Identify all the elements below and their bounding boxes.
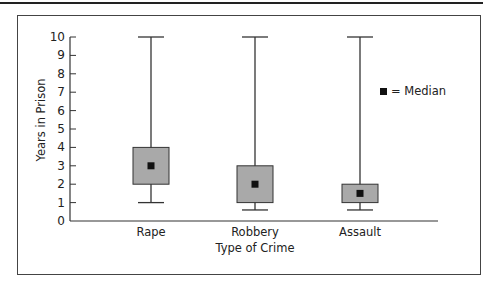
median-marker-icon [148,162,155,169]
median-marker-icon [252,181,259,188]
y-tick-label: 4 [57,140,65,154]
legend-label: = Median [391,84,446,98]
y-axis: 012345678910 [50,30,76,228]
box-plot-chart: 012345678910 RapeRobberyAssault Years in… [0,0,503,293]
box-robbery [237,37,273,210]
median-marker-icon [380,88,387,95]
y-tick-label: 3 [57,159,65,173]
median-marker-icon [357,190,364,197]
y-tick-label: 10 [50,30,65,44]
y-tick-label: 5 [57,122,65,136]
box-assault [342,37,378,210]
y-tick-label: 9 [57,48,65,62]
y-tick-label: 2 [57,177,65,191]
x-category-label: Robbery [231,225,279,239]
x-axis: RapeRobberyAssault [70,221,438,239]
boxes [133,37,378,210]
y-tick-label: 1 [57,196,65,210]
y-tick-label: 0 [57,214,65,228]
x-category-label: Assault [339,225,381,239]
y-tick-label: 7 [57,85,65,99]
y-axis-title: Years in Prison [34,78,48,162]
y-tick-label: 8 [57,67,65,81]
y-tick-label: 6 [57,104,65,118]
legend: = Median [380,84,446,98]
x-axis-title: Type of Crime [214,241,294,255]
x-category-label: Rape [136,225,165,239]
box-rape [133,37,169,203]
